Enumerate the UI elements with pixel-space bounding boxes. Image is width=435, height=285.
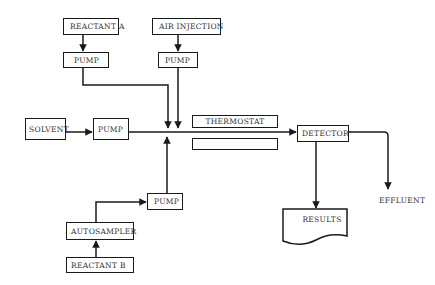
detector-label: DETECTOR xyxy=(302,129,349,138)
thermostat-label: THERMOSTAT xyxy=(205,117,264,126)
reactant-a-box: REACTANT A xyxy=(63,18,119,35)
thermostat-box: THERMOSTAT xyxy=(192,115,278,128)
arrow-detector-to-effluent xyxy=(348,132,388,189)
pump-solvent-label: PUMP xyxy=(98,125,123,134)
pump-a-box: PUMP xyxy=(63,52,109,68)
pump-air-label: PUMP xyxy=(165,56,190,65)
detector-box: DETECTOR xyxy=(297,125,349,142)
arrow-autosampler-to-pump xyxy=(96,202,146,222)
reactant-b-label: REACTANT B xyxy=(71,261,126,270)
pump-solvent-box: PUMP xyxy=(93,118,129,140)
pump-air-box: PUMP xyxy=(158,52,198,68)
autosampler-box: AUTOSAMPLER xyxy=(66,222,134,240)
pump-sample-label: PUMP xyxy=(154,197,179,206)
coil-box xyxy=(192,138,278,150)
air-injection-box: AIR INJECTION xyxy=(152,18,221,35)
results-label: RESULTS xyxy=(299,215,345,224)
autosampler-label: AUTOSAMPLER xyxy=(71,227,137,236)
solvent-box: SOLVENT xyxy=(25,118,66,140)
air-injection-label: AIR INJECTION xyxy=(159,22,224,31)
solvent-label: SOLVENT xyxy=(29,125,69,134)
pump-sample-box: PUMP xyxy=(147,193,183,210)
flow-diagram: REACTANT A AIR INJECTION PUMP PUMP SOLVE… xyxy=(0,0,435,285)
effluent-label: EFFLUENT xyxy=(379,196,425,205)
pump-a-label: PUMP xyxy=(70,56,99,65)
reactant-b-box: REACTANT B xyxy=(66,257,134,273)
reactant-a-label: REACTANT A xyxy=(70,22,125,31)
